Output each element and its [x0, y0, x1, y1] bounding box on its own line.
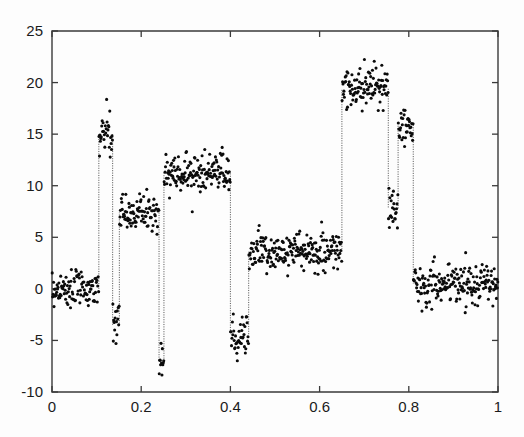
data-point	[425, 302, 428, 305]
data-point	[135, 200, 138, 203]
x-tick-label-4: 0.8	[398, 398, 419, 415]
data-point	[89, 288, 92, 291]
data-point	[473, 281, 476, 284]
data-point	[274, 246, 277, 249]
data-point	[357, 90, 360, 93]
data-point	[390, 216, 393, 219]
data-point	[422, 282, 425, 285]
data-point	[175, 180, 178, 183]
data-point	[126, 226, 129, 229]
figure-container: 00.20.40.60.81 -10-50510152025	[0, 0, 524, 437]
data-point	[342, 90, 345, 93]
data-point	[109, 156, 112, 159]
data-point	[117, 323, 120, 326]
data-point	[199, 164, 202, 167]
data-point	[320, 220, 323, 223]
data-point	[409, 126, 412, 129]
data-point	[438, 272, 441, 275]
y-tick-label-7: 25	[26, 22, 43, 39]
data-point	[391, 220, 394, 223]
data-point	[102, 138, 105, 141]
data-point	[486, 269, 489, 272]
data-point	[432, 260, 435, 263]
data-point	[173, 156, 176, 159]
data-point	[55, 291, 58, 294]
data-point	[369, 75, 372, 78]
data-point	[384, 85, 387, 88]
data-point	[256, 249, 259, 252]
data-point	[334, 258, 337, 261]
data-point	[453, 271, 456, 274]
data-point	[213, 161, 216, 164]
data-point	[487, 279, 490, 282]
data-point	[367, 85, 370, 88]
data-point	[403, 109, 406, 112]
data-point	[98, 155, 101, 158]
data-point	[287, 264, 290, 267]
data-point	[399, 126, 402, 129]
data-point	[207, 162, 210, 165]
data-point	[113, 328, 116, 331]
data-point	[414, 271, 417, 274]
scatter-plot: 00.20.40.60.81 -10-50510152025	[0, 0, 524, 437]
data-point	[219, 166, 222, 169]
data-point	[246, 321, 249, 324]
data-point	[102, 121, 105, 124]
data-point	[81, 286, 84, 289]
data-point	[359, 87, 362, 90]
data-point	[79, 293, 82, 296]
data-point	[192, 169, 195, 172]
data-point	[120, 201, 123, 204]
data-point	[193, 183, 196, 186]
data-point	[404, 136, 407, 139]
data-point	[116, 309, 119, 312]
data-point	[303, 243, 306, 246]
data-point	[462, 282, 465, 285]
data-point	[96, 300, 99, 303]
data-point	[397, 121, 400, 124]
data-point	[346, 106, 349, 109]
data-point	[309, 237, 312, 240]
data-point	[95, 279, 98, 282]
data-point	[338, 252, 341, 255]
data-point	[178, 168, 181, 171]
data-point	[269, 265, 272, 268]
data-point	[474, 265, 477, 268]
data-point	[483, 268, 486, 271]
data-point	[170, 162, 173, 165]
data-point	[82, 280, 85, 283]
data-point	[414, 268, 417, 271]
data-point	[324, 260, 327, 263]
data-point	[495, 297, 498, 300]
data-point	[110, 142, 113, 145]
data-point	[137, 215, 140, 218]
data-point	[469, 272, 472, 275]
data-point	[476, 304, 479, 307]
data-point	[466, 291, 469, 294]
data-point	[481, 263, 484, 266]
data-point	[383, 88, 386, 91]
data-point	[124, 193, 127, 196]
data-point	[218, 176, 221, 179]
data-point	[103, 146, 106, 149]
data-point	[379, 84, 382, 87]
data-point	[132, 204, 135, 207]
data-point	[420, 286, 423, 289]
data-point	[138, 206, 141, 209]
data-point	[332, 266, 335, 269]
y-tick-label-3: 5	[35, 228, 43, 245]
data-point	[371, 69, 374, 72]
data-point	[246, 335, 249, 338]
data-point	[401, 123, 404, 126]
data-point	[115, 333, 118, 336]
data-point	[340, 260, 343, 263]
data-point	[302, 269, 305, 272]
data-point	[392, 190, 395, 193]
data-point	[189, 162, 192, 165]
data-point	[334, 252, 337, 255]
data-point	[215, 160, 218, 163]
data-point	[175, 184, 178, 187]
data-point	[479, 276, 482, 279]
data-point	[276, 253, 279, 256]
data-point	[276, 239, 279, 242]
